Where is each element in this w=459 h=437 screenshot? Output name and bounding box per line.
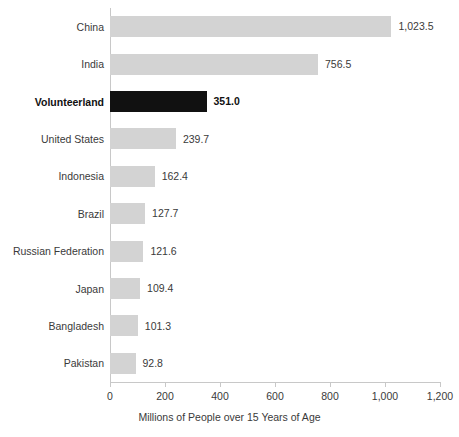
bar-row: 351.0 <box>110 83 459 120</box>
x-tick-mark <box>330 382 331 387</box>
bar-row: 1,023.5 <box>110 8 459 45</box>
category-label: India <box>0 59 104 70</box>
bar-value-label: 1,023.5 <box>398 21 433 32</box>
bar-row: 101.3 <box>110 307 459 344</box>
category-label: Indonesia <box>0 171 104 182</box>
x-tick-label: 800 <box>321 391 339 402</box>
bar[interactable] <box>110 16 391 37</box>
bar[interactable] <box>110 128 176 149</box>
x-tick-mark <box>275 382 276 387</box>
bar-value-label: 109.4 <box>147 283 173 294</box>
bar-value-label: 127.7 <box>152 208 178 219</box>
x-tick-mark <box>385 382 386 387</box>
category-label: Bangladesh <box>0 321 104 332</box>
bar[interactable] <box>110 54 318 75</box>
x-tick-mark <box>165 382 166 387</box>
bar-row: 756.5 <box>110 45 459 82</box>
bar[interactable] <box>110 353 136 374</box>
bar-value-label: 121.6 <box>150 246 176 257</box>
bar-value-label: 101.3 <box>145 321 171 332</box>
bar[interactable] <box>110 203 145 224</box>
x-tick-label: 1,000 <box>372 391 398 402</box>
bar-value-label: 92.8 <box>143 358 163 369</box>
bar-value-label: 351.0 <box>214 96 240 107</box>
category-label: Brazil <box>0 209 104 220</box>
x-axis-title: Millions of People over 15 Years of Age <box>0 412 459 423</box>
x-tick-label: 0 <box>107 391 113 402</box>
bar-row: 109.4 <box>110 270 459 307</box>
category-label: Volunteerland <box>0 97 104 108</box>
bar-row: 92.8 <box>110 345 459 382</box>
x-tick-mark <box>440 382 441 387</box>
category-label: China <box>0 22 104 33</box>
x-tick-mark <box>110 382 111 387</box>
bar-value-label: 756.5 <box>325 59 351 70</box>
bar-row: 162.4 <box>110 158 459 195</box>
category-label: Pakistan <box>0 358 104 369</box>
bar[interactable] <box>110 91 207 112</box>
x-tick-mark <box>220 382 221 387</box>
bar-row: 121.6 <box>110 232 459 269</box>
bar[interactable] <box>110 166 155 187</box>
category-label: Japan <box>0 284 104 295</box>
bar-row: 127.7 <box>110 195 459 232</box>
bar-row: 239.7 <box>110 120 459 157</box>
bar-value-label: 162.4 <box>162 171 188 182</box>
category-label: Russian Federation <box>0 246 104 257</box>
x-tick-label: 200 <box>156 391 174 402</box>
category-label: United States <box>0 134 104 145</box>
bar[interactable] <box>110 241 143 262</box>
x-tick-label: 1,200 <box>427 391 453 402</box>
bar-chart: 1,023.5756.5351.0239.7162.4127.7121.6109… <box>0 0 459 437</box>
x-tick-label: 400 <box>211 391 229 402</box>
x-tick-label: 600 <box>266 391 284 402</box>
bar-value-label: 239.7 <box>183 134 209 145</box>
bar[interactable] <box>110 278 140 299</box>
bar[interactable] <box>110 315 138 336</box>
